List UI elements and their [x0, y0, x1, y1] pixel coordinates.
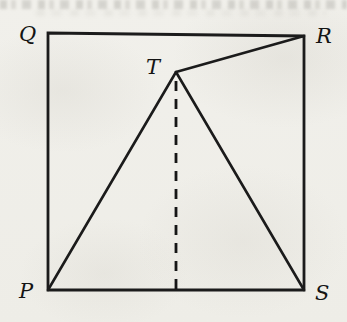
vertex-label-q: Q [19, 22, 36, 46]
segment-tr [176, 36, 304, 72]
segment-ts [176, 72, 304, 290]
geometry-figure-pqrs: Q R T P S [0, 0, 347, 322]
vertex-label-t: T [146, 55, 162, 79]
segment-pt [48, 72, 176, 290]
vertex-label-r: R [315, 24, 332, 48]
vertex-label-s: S [315, 281, 329, 305]
scanned-textbook-page: Q R T P S [0, 0, 347, 322]
vertex-label-p: P [18, 279, 34, 303]
